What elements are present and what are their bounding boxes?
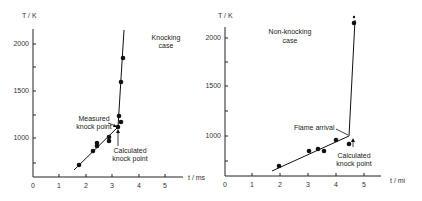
annotation-flame-arrival: Flame arrival (294, 124, 335, 131)
panel-knocking: T / K t / ms 1000 1500 2000 0 1 2 3 4 5 (13, 12, 205, 189)
case-title: case (283, 37, 298, 44)
annotation-calculated: Calculated (113, 147, 146, 154)
annotation-calculated: knock point (336, 160, 371, 168)
arrow-head-icon (351, 138, 355, 142)
case-title: case (159, 42, 174, 49)
y-tick-label: 1000 (205, 132, 221, 139)
y-tick-label: 1500 (205, 82, 221, 89)
x-tick-label: 3 (110, 182, 114, 189)
x-tick-label: 5 (163, 182, 167, 189)
y-tick-label: 1500 (13, 87, 29, 94)
case-title: Knocking (152, 34, 181, 42)
y-axis-label: T / K (22, 12, 37, 19)
chart-svg: T / K t / ms 1000 1500 2000 0 1 2 3 4 5 (0, 0, 422, 201)
panel-non-knocking: T / K t / mi 1000 1500 2000 0 1 2 3 4 5 (205, 12, 405, 188)
y-tick-label: 2000 (13, 40, 29, 47)
annotation-calculated: Calculated (337, 152, 370, 159)
x-tick-label: 0 (223, 181, 227, 188)
x-tick-label: 0 (31, 182, 35, 189)
x-axis-label: t / ms (188, 174, 206, 181)
y-tick-label: 2000 (205, 34, 221, 41)
y-tick-label: 1000 (13, 134, 29, 141)
annotation-measured: Measured (78, 115, 109, 122)
annotation-leader (336, 129, 348, 135)
x-tick-label: 2 (84, 182, 88, 189)
x-tick-label: 1 (250, 181, 254, 188)
annotation-measured: knock point (76, 123, 111, 131)
x-tick-label: 2 (278, 181, 282, 188)
y-axis-label: T / K (218, 12, 233, 19)
x-tick-label: 4 (334, 181, 338, 188)
x-axis-label: t / mi (390, 177, 406, 184)
x-tick-label: 3 (306, 181, 310, 188)
case-title: Non-knocking (269, 28, 312, 36)
x-tick-label: 4 (137, 182, 141, 189)
figure: T / K t / ms 1000 1500 2000 0 1 2 3 4 5 (0, 0, 422, 201)
annotation-calculated: knock point (112, 155, 147, 163)
x-tick-label: 1 (57, 182, 61, 189)
arrow-head-icon (116, 129, 120, 133)
x-tick-label: 5 (362, 181, 366, 188)
